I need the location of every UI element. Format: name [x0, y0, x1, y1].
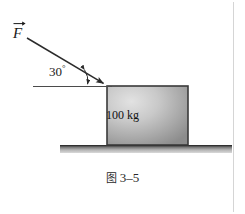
- figure-number: 3–5: [120, 170, 140, 185]
- force-vector-label: F: [13, 26, 22, 41]
- figure-caption: 图3–5: [0, 171, 245, 184]
- block-mass-label: 100 kg: [0, 109, 245, 121]
- degree-symbol: °: [62, 63, 66, 73]
- figure-word-glyph: 图: [106, 172, 117, 185]
- vector-arrow-overbar-icon: [13, 20, 26, 27]
- force-symbol: F: [13, 25, 22, 41]
- figure-container: F 30° 100 kg 图3–5: [0, 0, 245, 214]
- block-mass-text: 100 kg: [106, 109, 139, 121]
- ground-surface: [60, 145, 232, 153]
- angle-label-30-degrees: 30°: [49, 64, 66, 78]
- angle-value: 30: [49, 64, 62, 79]
